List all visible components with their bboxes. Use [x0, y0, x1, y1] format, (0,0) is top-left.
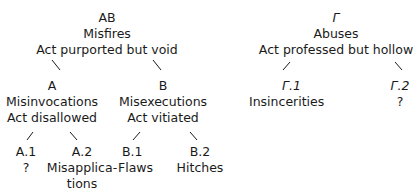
node-gamma-name: Abuses [313, 26, 358, 42]
node-a2-name-line1: Misapplica- [47, 160, 117, 176]
node-b2-name: Hitches [177, 160, 224, 176]
node-a-code: A [48, 78, 57, 94]
node-a2-name-line2: tions [67, 176, 97, 192]
edge-a-a2 [70, 132, 77, 140]
node-gamma-description: Act professed but hollow [259, 42, 413, 58]
node-b-code: B [159, 78, 168, 94]
node-gamma2-name: ? [397, 94, 404, 110]
node-ab-description: Act purported but void [36, 42, 177, 58]
node-a1-name: ? [23, 160, 30, 176]
edge-b-b2 [190, 132, 197, 140]
edge-ab-b [153, 60, 161, 70]
edge-a-a1 [27, 132, 33, 140]
node-b-description: Act vitiated [127, 110, 199, 126]
edge-g-g2 [395, 62, 402, 70]
node-ab-code: AB [98, 10, 115, 26]
node-b2-code: B.2 [190, 144, 211, 160]
edge-ab-a [52, 60, 60, 70]
node-a-name: Misinvocations [6, 94, 98, 110]
node-ab-name: Misfires [83, 26, 131, 42]
node-gamma1-name: Insincerities [249, 94, 324, 110]
node-a2-code: A.2 [72, 144, 92, 160]
node-gamma2-code: Γ.2 [391, 78, 410, 94]
node-gamma1-code: Γ.1 [282, 78, 301, 94]
edge-b-b1 [133, 132, 140, 140]
node-gamma-code: Γ [333, 10, 340, 26]
node-a-description: Act disallowed [7, 110, 97, 126]
node-b-name: Misexecutions [119, 94, 207, 110]
node-b1-name: Flaws [118, 160, 153, 176]
node-b1-code: B.1 [122, 144, 143, 160]
node-a1-code: A.1 [16, 144, 36, 160]
edge-g-g1 [283, 62, 290, 70]
